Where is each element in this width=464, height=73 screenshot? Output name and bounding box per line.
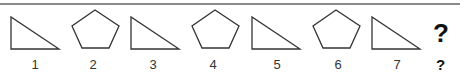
unknown-label-question-mark: ? [436,56,445,73]
label-7: 7 [382,57,412,72]
pentagon-shape-4 [192,10,239,48]
triangle-shape-3 [131,17,179,49]
label-4: 4 [198,57,228,72]
triangle-shape-1 [11,17,59,49]
label-2: 2 [78,57,108,72]
triangle-shape-7 [372,17,420,49]
label-3: 3 [138,57,168,72]
pentagon-shape-6 [313,10,360,48]
triangle-shape-5 [252,17,300,49]
label-1: 1 [20,57,50,72]
label-5: 5 [262,57,292,72]
pentagon-shape-2 [72,10,119,48]
label-6: 6 [323,57,353,72]
unknown-shape-question-mark: ? [433,18,449,49]
